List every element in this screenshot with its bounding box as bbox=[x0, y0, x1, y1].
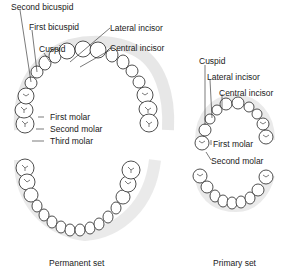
label-central-incisor: Central incisor bbox=[110, 44, 164, 53]
label-lateral-incisor: Lateral incisor bbox=[110, 24, 163, 33]
teeth-diagram bbox=[0, 0, 281, 275]
caption-permanent-set: Permanent set bbox=[49, 258, 104, 268]
label-second-bicuspid: Second bicuspid bbox=[11, 3, 73, 12]
label-second-molar: Second molar bbox=[50, 125, 102, 134]
label-primary-second-molar: Second molar bbox=[211, 157, 263, 166]
primary-lower-arch bbox=[193, 169, 273, 209]
permanent-upper-arch bbox=[15, 41, 168, 133]
label-primary-cuspid: Cuspid bbox=[199, 57, 225, 66]
label-third-molar: Third molar bbox=[50, 137, 93, 146]
label-cuspid: Cuspid bbox=[39, 45, 65, 54]
label-first-bicuspid: First bicuspid bbox=[29, 23, 79, 32]
label-primary-lateral-incisor: Lateral incisor bbox=[207, 73, 260, 82]
label-first-molar: First molar bbox=[50, 113, 90, 122]
label-primary-first-molar: First molar bbox=[213, 140, 253, 149]
label-primary-central-incisor: Central incisor bbox=[219, 89, 273, 98]
permanent-lower-arch bbox=[16, 159, 155, 236]
caption-primary-set: Primary set bbox=[213, 258, 256, 268]
